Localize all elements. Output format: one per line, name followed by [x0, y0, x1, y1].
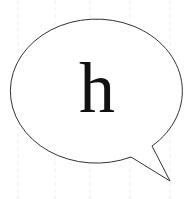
speech-bubble-graphic: h: [0, 0, 194, 199]
bubble-letter: h: [79, 48, 115, 128]
